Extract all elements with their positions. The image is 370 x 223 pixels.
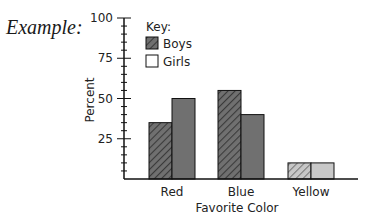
bar-girls-blue	[241, 115, 264, 179]
bar-boys-blue	[218, 90, 241, 179]
bar-boys-yellow	[288, 163, 311, 179]
x-tick-label: Blue	[228, 185, 255, 199]
bars	[149, 90, 334, 179]
bar-girls-yellow	[311, 163, 334, 179]
legend-title: Key:	[146, 20, 171, 34]
bar-chart: Example: 255075100 Percent RedBlueYellow…	[0, 0, 370, 223]
legend-label-girls: Girls	[163, 55, 190, 69]
legend-swatch-boys	[146, 37, 158, 49]
y-tick-label: 100	[90, 11, 113, 25]
x-tick-label: Red	[161, 185, 184, 199]
x-axis: RedBlueYellow	[124, 179, 358, 199]
y-tick-label: 50	[98, 92, 113, 106]
example-label: Example:	[5, 16, 83, 39]
x-axis-label: Favorite Color	[195, 201, 278, 215]
legend: Key: Boys Girls	[146, 20, 192, 69]
legend-label-boys: Boys	[163, 37, 192, 51]
bar-girls-red	[172, 99, 195, 180]
legend-swatch-girls	[146, 55, 158, 67]
bar-boys-red	[149, 123, 172, 179]
y-tick-label: 25	[98, 132, 113, 146]
y-tick-label: 75	[98, 51, 113, 65]
y-axis-label: Percent	[83, 77, 97, 122]
x-tick-label: Yellow	[292, 185, 330, 199]
